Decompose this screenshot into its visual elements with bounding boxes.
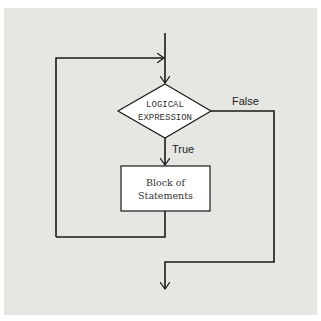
true-label: True [172,143,194,155]
decision-text: LOGICAL EXPRESSION [128,99,202,125]
flowchart-lines [0,0,321,321]
process-line-2: Statements [121,189,210,202]
decision-line-2: EXPRESSION [128,112,202,125]
process-text: Block of Statements [121,176,210,202]
false-label: False [232,95,259,107]
process-line-1: Block of [121,176,210,189]
loop-bottom-line [56,211,165,237]
decision-line-1: LOGICAL [128,99,202,112]
